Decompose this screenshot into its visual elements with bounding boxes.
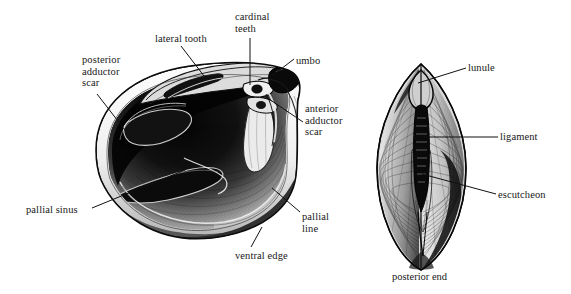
label-escutcheon: escutcheon <box>498 189 546 201</box>
leader-escutcheon <box>422 174 496 194</box>
leader-posterior-adductor-scar <box>97 94 128 134</box>
label-pallial-line: pallial line <box>302 211 329 234</box>
leader-pallial-line <box>272 188 300 212</box>
leader-anterior-adductor-scar <box>266 97 303 122</box>
bivalve-shell-anatomy-figure: posterior adductor scar lateral tooth ca… <box>0 0 571 294</box>
leader-pallial-sinus <box>92 170 185 208</box>
label-ventral-edge: ventral edge <box>235 250 288 262</box>
label-cardinal-teeth: cardinal teeth <box>235 11 270 34</box>
label-lateral-tooth: lateral tooth <box>155 33 207 45</box>
leader-umbo <box>268 59 294 79</box>
leader-ventral-edge <box>251 227 262 247</box>
leader-lunule <box>418 68 466 83</box>
leader-lateral-tooth <box>181 46 204 76</box>
label-posterior-adductor-scar: posterior adductor scar <box>82 54 120 89</box>
label-lunule: lunule <box>468 62 495 74</box>
label-pallial-sinus: pallial sinus <box>26 204 78 216</box>
label-anterior-adductor-scar: anterior adductor scar <box>305 103 343 138</box>
label-ligament: ligament <box>500 131 538 143</box>
caption-posterior-end: posterior end <box>392 271 447 282</box>
label-umbo: umbo <box>296 55 320 67</box>
